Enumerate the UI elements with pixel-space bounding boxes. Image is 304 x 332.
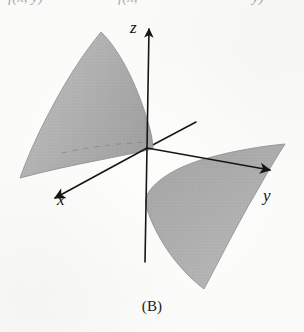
formula-fragment-middle: f(x,: [118, 0, 138, 6]
saddle-surface-plot: [0, 13, 304, 296]
axis-label-z: z: [130, 19, 137, 36]
surface-lobe-lower-right: [146, 144, 285, 289]
figure-caption: (B): [0, 298, 304, 315]
axis-ray-x-negative: [147, 122, 196, 148]
formula-fragment-left: f(x, y): [8, 0, 43, 6]
axis-label-y: y: [263, 187, 271, 204]
cropped-formula-strip: f(x, y) f(x, y): [0, 0, 304, 13]
axis-ray-z-negative: [145, 148, 147, 262]
lobe-lower-right-texture: [146, 144, 285, 289]
formula-fragment-right: y): [252, 0, 264, 6]
axis-label-x: x: [57, 191, 65, 208]
figure-container: f(x, y) f(x, y): [0, 0, 304, 332]
